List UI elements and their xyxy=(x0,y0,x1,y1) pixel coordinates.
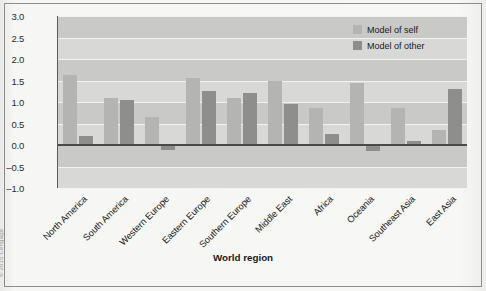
bar-self xyxy=(432,130,446,145)
bar-self xyxy=(145,117,159,145)
bar-group xyxy=(303,16,344,188)
y-axis-tick-label: 2.0 xyxy=(0,54,24,65)
y-axis-tick-label: –0.5 xyxy=(0,161,24,172)
bar-other xyxy=(284,104,298,145)
y-axis-tick-label: 0.5 xyxy=(0,118,24,129)
legend-item-other: Model of other xyxy=(353,39,425,52)
bar-self xyxy=(268,81,282,146)
bar-self xyxy=(63,75,77,145)
legend-item-self: Model of self xyxy=(353,23,425,36)
bar-self xyxy=(104,98,118,145)
bar-group xyxy=(139,16,180,188)
bar-group xyxy=(180,16,221,188)
bar-group xyxy=(57,16,98,188)
y-axis-tick-label: 2.5 xyxy=(0,32,24,43)
bar-group xyxy=(262,16,303,188)
y-axis-tick-label: 1.5 xyxy=(0,75,24,86)
bar-other xyxy=(202,91,216,145)
bar-group xyxy=(221,16,262,188)
bar-other xyxy=(120,100,134,145)
y-axis-tick-label: –1.0 xyxy=(0,183,24,194)
legend-swatch-self-icon xyxy=(353,25,362,34)
bar-self xyxy=(391,108,405,145)
bar-self xyxy=(350,83,364,145)
y-axis-tick-label: 0.0 xyxy=(0,140,24,151)
bar-group xyxy=(98,16,139,188)
bar-self xyxy=(227,98,241,145)
chart-legend: Model of self Model of other xyxy=(353,23,425,55)
plot-area: Model of self Model of other xyxy=(57,16,467,188)
legend-swatch-other-icon xyxy=(353,41,362,50)
bar-self xyxy=(309,108,323,145)
zero-baseline xyxy=(57,144,467,146)
bar-other xyxy=(448,89,462,145)
grid-line xyxy=(57,188,467,189)
x-axis-title: World region xyxy=(0,252,486,263)
y-axis-line xyxy=(57,16,58,188)
figure-container: Internal working models 3.02.52.01.51.00… xyxy=(0,0,486,291)
legend-label-other: Model of other xyxy=(367,41,425,51)
copyright-credit: © 2015 Cengage xyxy=(0,229,4,277)
legend-label-self: Model of self xyxy=(367,25,418,35)
y-axis-tick-label: 3.0 xyxy=(0,11,24,22)
bar-group xyxy=(426,16,467,188)
y-axis-tick-label: 1.0 xyxy=(0,97,24,108)
bar-self xyxy=(186,78,200,145)
bar-other xyxy=(243,93,257,145)
